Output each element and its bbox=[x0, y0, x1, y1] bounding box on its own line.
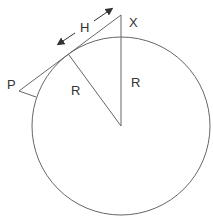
label-h: H bbox=[80, 20, 89, 35]
earth-horizon-diagram: H X P R R bbox=[0, 0, 213, 217]
p-connector-line bbox=[19, 91, 36, 97]
label-p: P bbox=[7, 77, 16, 92]
h-arrow-lower bbox=[60, 33, 75, 43]
label-r-vertical: R bbox=[131, 75, 140, 90]
label-x: X bbox=[129, 15, 138, 30]
label-r-slanted: R bbox=[71, 83, 80, 98]
tangent-line bbox=[19, 15, 121, 91]
h-arrow-upper bbox=[94, 10, 110, 21]
